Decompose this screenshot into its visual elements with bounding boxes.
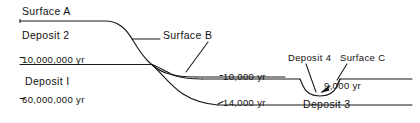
deposit-4-leader bbox=[306, 64, 316, 92]
label-age-9000: 9,000 yr bbox=[324, 81, 361, 91]
label-deposit-1: Deposit I bbox=[25, 76, 70, 87]
label-deposit-3: Deposit 3 bbox=[303, 99, 351, 110]
surface-c-leader bbox=[337, 64, 347, 80]
label-age-60000000: 60,000,000 yr bbox=[22, 95, 85, 105]
label-age-10000000: 10,000,000 yr bbox=[22, 55, 85, 65]
label-age-10000: 10,000 yr bbox=[223, 72, 266, 82]
surface-b-leader-diagonal bbox=[186, 42, 208, 72]
label-age-14000: 14,000 yr bbox=[223, 98, 266, 108]
label-surface-a: Surface A bbox=[22, 6, 71, 17]
stratigraphy-diagram: Surface A Deposit 2 10,000,000 yr Deposi… bbox=[0, 0, 420, 123]
label-surface-b: Surface B bbox=[163, 30, 212, 41]
label-deposit-4: Deposit 4 bbox=[288, 53, 331, 63]
label-surface-c: Surface C bbox=[340, 53, 385, 63]
label-deposit-2: Deposit 2 bbox=[22, 30, 70, 41]
erosion-curve-lower bbox=[152, 65, 218, 106]
